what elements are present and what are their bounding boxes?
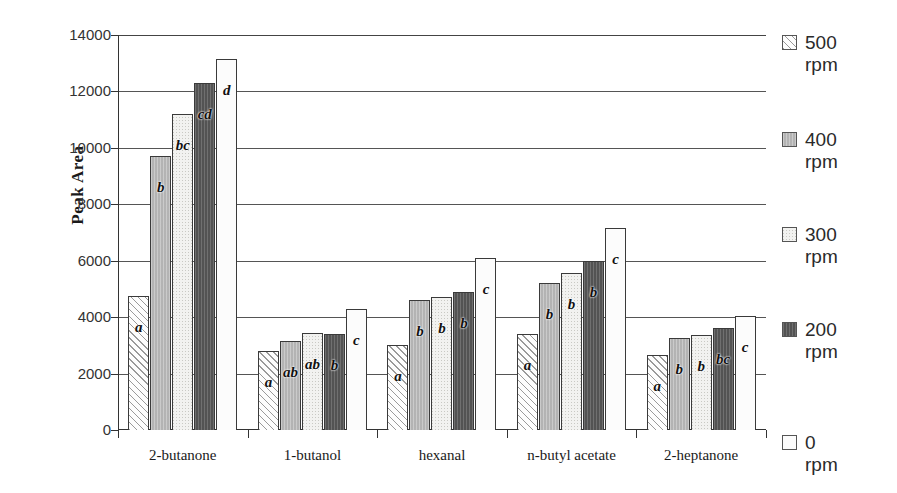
legend-swatch-icon	[782, 322, 797, 337]
bar-annotation: b	[157, 179, 165, 196]
bar-annotation: c	[612, 251, 619, 268]
y-tick-label: 14000	[41, 27, 111, 42]
bar-annotation: b	[416, 323, 424, 340]
bar[interactable]: c	[346, 309, 367, 430]
bar[interactable]: c	[475, 258, 496, 430]
bar-group: abbbc	[377, 35, 507, 430]
legend-item[interactable]: 500 rpm	[782, 32, 838, 77]
bar-annotation: ab	[283, 364, 298, 381]
bar-annotation: d	[223, 82, 231, 99]
bar[interactable]: b	[583, 261, 604, 430]
bar[interactable]: cd	[194, 83, 215, 430]
bar[interactable]: bc	[172, 114, 193, 430]
bar-annotation: a	[524, 357, 532, 374]
x-axis-category-label: hexanal	[377, 447, 507, 464]
bar-annotation: b	[546, 306, 554, 323]
bar[interactable]: b	[539, 283, 560, 430]
x-tick-mark	[507, 430, 508, 438]
x-tick-mark	[766, 430, 767, 438]
legend-swatch-icon	[782, 35, 797, 50]
bar[interactable]: ab	[302, 333, 323, 430]
legend-label: 500 rpm	[805, 32, 838, 77]
bar[interactable]: b	[150, 156, 171, 430]
bar-annotation: a	[135, 319, 143, 336]
x-tick-mark	[377, 430, 378, 438]
bar-annotation: b	[675, 361, 683, 378]
bar[interactable]: b	[691, 335, 712, 430]
bar-annotation: b	[568, 296, 576, 313]
chart-legend: 500 rpm400 rpm300 rpm200 rpm0 rpm	[782, 32, 894, 452]
bar-annotation: b	[697, 358, 705, 375]
legend-item[interactable]: 0 rpm	[782, 432, 838, 477]
bar-groups: abbccddaababbcabbbcabbbcabbbcc	[118, 35, 766, 430]
x-tick-mark	[118, 430, 119, 438]
bar[interactable]: b	[669, 338, 690, 430]
legend-item[interactable]: 300 rpm	[782, 224, 838, 269]
bar[interactable]: c	[735, 316, 756, 430]
x-tick-mark	[636, 430, 637, 438]
bar[interactable]: a	[258, 351, 279, 430]
legend-swatch-icon	[782, 435, 797, 450]
bar-group: aababbc	[248, 35, 378, 430]
x-tick-mark	[248, 430, 249, 438]
x-axis-category-label: 1-butanol	[248, 447, 378, 464]
bar-annotation: a	[653, 378, 661, 395]
chart-figure: Peak Area 020004000600080001000012000140…	[0, 0, 897, 493]
bar[interactable]: b	[324, 334, 345, 430]
bar[interactable]: b	[453, 292, 474, 430]
y-tick-label: 10000	[41, 140, 111, 155]
legend-swatch-icon	[782, 132, 797, 147]
bar[interactable]: b	[409, 300, 430, 430]
bar-annotation: c	[742, 339, 749, 356]
bar-annotation: cd	[198, 106, 212, 123]
bar-annotation: c	[353, 332, 360, 349]
bar[interactable]: b	[431, 297, 452, 430]
bar-annotation: bc	[176, 137, 190, 154]
bar-annotation: b	[590, 284, 598, 301]
x-axis-category-label: n-butyl acetate	[507, 447, 637, 464]
legend-label: 400 rpm	[805, 129, 838, 174]
bar-annotation: ab	[305, 356, 320, 373]
bar-group: abbbcc	[636, 35, 766, 430]
bar[interactable]: ab	[280, 341, 301, 430]
bar-annotation: c	[483, 281, 490, 298]
bar-annotation: a	[265, 374, 273, 391]
bar[interactable]: a	[387, 345, 408, 430]
bar[interactable]: bc	[713, 328, 734, 430]
y-tick-label: 0	[41, 422, 111, 437]
bar-annotation: bc	[716, 351, 730, 368]
bar-group: abbccdd	[118, 35, 248, 430]
y-tick-label: 4000	[41, 309, 111, 324]
y-tick-label: 2000	[41, 366, 111, 381]
x-axis-category-label: 2-heptanone	[636, 447, 766, 464]
bar[interactable]: a	[517, 334, 538, 430]
legend-item[interactable]: 200 rpm	[782, 319, 838, 364]
bar[interactable]: a	[647, 355, 668, 430]
legend-swatch-icon	[782, 227, 797, 242]
bar[interactable]: d	[216, 59, 237, 430]
legend-item[interactable]: 400 rpm	[782, 129, 838, 174]
legend-label: 0 rpm	[805, 432, 838, 477]
bar-annotation: b	[438, 320, 446, 337]
bar-annotation: b	[331, 357, 339, 374]
legend-label: 300 rpm	[805, 224, 838, 269]
bar[interactable]: a	[128, 296, 149, 430]
bar[interactable]: c	[605, 228, 626, 430]
y-tick-label: 6000	[41, 253, 111, 268]
bar-annotation: b	[460, 315, 468, 332]
legend-label: 200 rpm	[805, 319, 838, 364]
y-axis-title: Peak Area	[68, 115, 88, 255]
bar-annotation: a	[394, 368, 402, 385]
x-axis-labels: 2-butanone1-butanolhexanaln-butyl acetat…	[118, 447, 766, 464]
bar[interactable]: b	[561, 273, 582, 430]
y-tick-label: 12000	[41, 83, 111, 98]
x-axis-category-label: 2-butanone	[118, 447, 248, 464]
y-tick-label: 8000	[41, 196, 111, 211]
bar-group: abbbc	[507, 35, 637, 430]
